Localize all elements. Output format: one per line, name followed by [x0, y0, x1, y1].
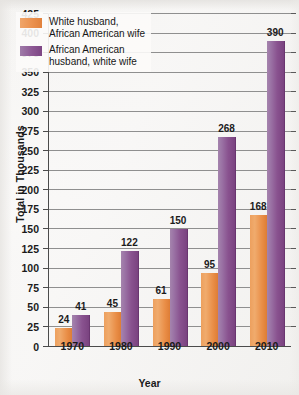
legend-label: African American husband, white wife [49, 44, 137, 67]
y-tick-label: 225 [0, 165, 39, 176]
x-tick-label: 1970 [45, 340, 99, 352]
y-axis-tick-right [291, 248, 296, 249]
y-tick-label: 300 [0, 106, 39, 117]
y-axis-tick-right [291, 209, 296, 210]
y-tick-label: 275 [0, 126, 39, 137]
x-tick-label: 2000 [191, 340, 245, 352]
y-axis-tick-right [291, 72, 296, 73]
y-axis-tick-right [291, 268, 296, 269]
y-axis-tick-right [291, 170, 296, 171]
y-tick-label: 150 [0, 224, 39, 235]
x-tick-label: 2010 [240, 340, 294, 352]
y-axis-tick-right [291, 91, 296, 92]
y-axis-tick-right [291, 228, 296, 229]
scan-edge-top [0, 0, 299, 10]
y-tick-label: 200 [0, 185, 39, 196]
y-tick-label: 0 [0, 342, 39, 353]
y-axis-tick-right [291, 150, 296, 151]
legend-item: White husband, African American wife [20, 16, 145, 39]
y-tick-label: 175 [0, 204, 39, 215]
y-tick-label: 100 [0, 263, 39, 274]
y-tick-label: 75 [0, 283, 39, 294]
y-axis-tick-right [291, 131, 296, 132]
y-axis-tick-right [291, 111, 296, 112]
legend-item: African American husband, white wife [20, 44, 145, 67]
legend-swatch [20, 18, 42, 28]
y-tick-label: 25 [0, 322, 39, 333]
x-tick-label: 1980 [94, 340, 148, 352]
scan-edge-left [0, 0, 12, 395]
bar-chart: Total in Thousands Year 0255075100125150… [0, 0, 299, 395]
y-axis-tick-right [291, 189, 296, 190]
chart-legend: White husband, African American wifeAfri… [16, 12, 151, 72]
y-axis-tick-right [291, 52, 296, 53]
legend-label: White husband, African American wife [49, 16, 145, 39]
y-axis-tick-right [291, 307, 296, 308]
x-axis-title: Year [0, 377, 299, 389]
y-axis-tick-right [291, 287, 296, 288]
y-axis-tick-right [291, 13, 296, 14]
y-tick-label: 50 [0, 302, 39, 313]
y-tick-label: 325 [0, 87, 39, 98]
y-axis-tick-right [291, 326, 296, 327]
y-tick-label: 250 [0, 146, 39, 157]
legend-swatch [20, 46, 42, 56]
y-tick-label: 125 [0, 244, 39, 255]
x-tick-label: 1990 [143, 340, 197, 352]
